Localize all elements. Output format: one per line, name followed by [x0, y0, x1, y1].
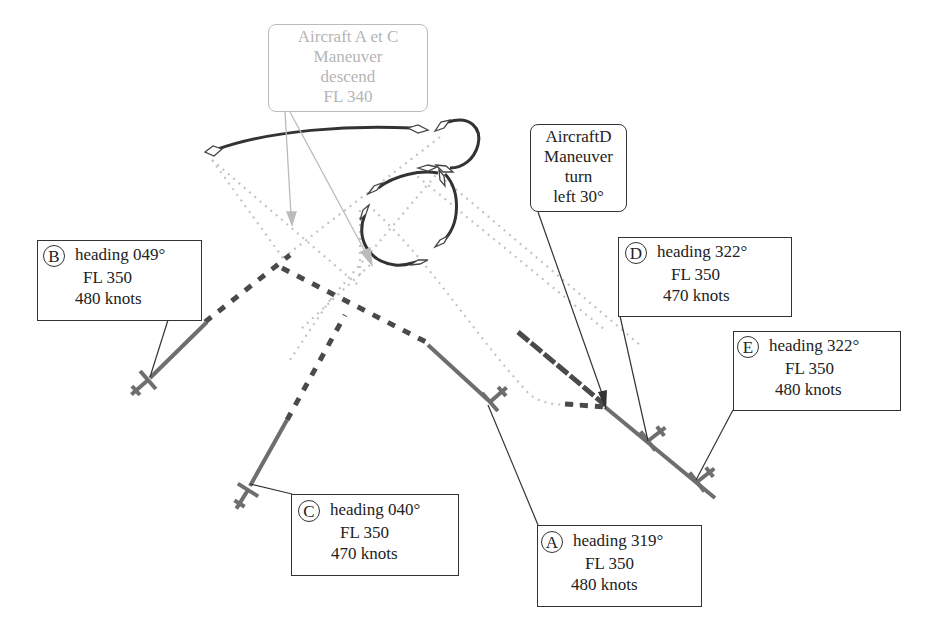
track-d-e [518, 332, 715, 498]
aircraft-b-label: Bheading 049° FL 350 480 knots [37, 240, 202, 321]
heading-text: heading 322° [769, 336, 859, 355]
heading-text: heading 040° [330, 500, 420, 519]
flight-level-text: FL 350 [298, 522, 458, 543]
track-a [282, 268, 488, 400]
callout-line: Aircraft A et C [269, 27, 427, 47]
aircraft-id-badge: D [625, 242, 647, 264]
heading-text: heading 322° [657, 242, 747, 261]
marker-icon [408, 125, 428, 133]
maneuver-callout-a-c: Aircraft A et C Maneuver descend FL 340 [268, 24, 428, 112]
callout-line: left 30° [531, 187, 626, 207]
track-c [250, 315, 345, 486]
callout-line: FL 340 [269, 87, 427, 107]
aircraft-c-icon [226, 484, 258, 515]
marker-icon [368, 183, 382, 194]
marker-icon [418, 165, 437, 171]
maneuver-callout-d: AircraftD Maneuver turn left 30° [530, 124, 627, 212]
callout-line: AircraftD [531, 127, 626, 147]
speed-text: 480 knots [541, 574, 701, 595]
speed-text: 470 knots [625, 285, 791, 306]
aircraft-c-label: Cheading 040° FL 350 470 knots [291, 494, 459, 576]
speed-text: 470 knots [298, 543, 458, 564]
aircraft-id-badge: B [43, 245, 65, 267]
aircraft-e-label: Eheading 322° FL 350 480 knots [733, 331, 901, 411]
aircraft-d-label: Dheading 322° FL 350 470 knots [618, 237, 792, 317]
aircraft-e-icon [690, 459, 722, 491]
atc-maneuver-diagram: Aircraft A et C Maneuver descend FL 340 … [0, 0, 935, 629]
flight-level-text: FL 350 [43, 267, 201, 288]
callout-line: descend [269, 67, 427, 87]
speed-text: 480 knots [43, 288, 201, 309]
aircraft-a-icon [482, 379, 514, 412]
flight-level-text: FL 350 [625, 264, 791, 285]
heading-text: heading 049° [75, 245, 165, 264]
aircraft-id-badge: C [298, 500, 320, 522]
marker-icon [435, 120, 450, 131]
flight-level-text: FL 350 [541, 553, 701, 574]
marker-icon [435, 236, 448, 247]
ac-callout-pointers [285, 112, 372, 265]
aircraft-a-label: Aheading 319° FL 350 480 knots [537, 525, 702, 607]
marker-icon [205, 146, 222, 156]
aircraft-d-icon [641, 418, 673, 450]
heading-text: heading 319° [573, 531, 663, 550]
speed-text: 480 knots [737, 379, 900, 400]
aircraft-id-badge: E [737, 336, 759, 358]
callout-line: Maneuver [531, 147, 626, 167]
aircraft-id-badge: A [541, 531, 563, 553]
callout-line: Maneuver [269, 47, 427, 67]
flight-level-text: FL 350 [737, 358, 900, 379]
callout-line: turn [531, 167, 626, 187]
